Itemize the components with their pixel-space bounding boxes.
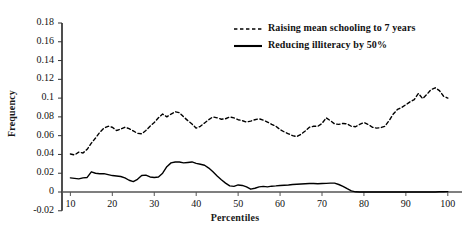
y-tick-label: 0.12 — [8, 72, 54, 83]
x-tick-label: 100 — [428, 198, 466, 209]
data-series — [70, 88, 447, 192]
y-tick-label: 0.08 — [8, 110, 54, 121]
x-tick-label: 60 — [260, 198, 300, 209]
legend-line-samples — [234, 29, 262, 46]
axes — [58, 23, 462, 211]
legend-label: Reducing illiteracy by 50% — [268, 39, 387, 50]
x-tick-label: 10 — [50, 198, 90, 209]
y-tick-label: 0.16 — [8, 35, 54, 46]
x-tick-label: 70 — [302, 198, 342, 209]
x-tick-label: 90 — [386, 198, 426, 209]
y-tick-label: -0.02 — [8, 204, 54, 215]
legend-label: Raising mean schooling to 7 years — [268, 22, 415, 33]
x-tick-label: 20 — [92, 198, 132, 209]
y-tick-label: 0.18 — [8, 16, 54, 27]
chart-figure: Frequency Percentiles -0.0200.020.040.06… — [0, 0, 466, 235]
y-tick-label: 0.1 — [8, 91, 54, 102]
y-tick-label: 0.14 — [8, 54, 54, 65]
series-line — [70, 88, 447, 155]
y-tick-label: 0 — [8, 185, 54, 196]
y-tick-label: 0.04 — [8, 147, 54, 158]
series-line — [70, 162, 447, 192]
x-tick-label: 30 — [134, 198, 174, 209]
x-tick-label: 50 — [218, 198, 258, 209]
x-tick-label: 40 — [176, 198, 216, 209]
x-tick-label: 80 — [344, 198, 384, 209]
y-tick-label: 0.02 — [8, 166, 54, 177]
y-tick-label: 0.06 — [8, 129, 54, 140]
x-axis-label: Percentiles — [190, 212, 280, 223]
